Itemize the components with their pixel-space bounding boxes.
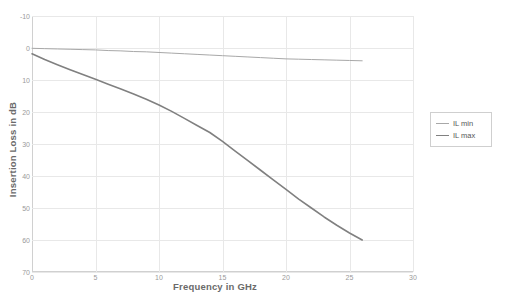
- y-axis-title: Insertion Loss in dB: [7, 90, 18, 210]
- y-tick-label: 10: [4, 77, 30, 84]
- x-tick-label: 10: [155, 274, 163, 281]
- legend-item-il-max[interactable]: IL max: [434, 130, 488, 141]
- x-tick-label: 20: [282, 274, 290, 281]
- x-tick-label: 30: [409, 274, 417, 281]
- x-tick-label: 15: [219, 274, 227, 281]
- y-tick-label: -10: [4, 13, 30, 20]
- plot-area: [32, 16, 413, 272]
- y-tick-label: 70: [4, 269, 30, 276]
- gridline-vertical: [413, 16, 414, 272]
- legend-swatch-il-max: [436, 135, 449, 137]
- series-line: [32, 48, 362, 60]
- chart-page: -10010203040506070 051015202530 Frequenc…: [0, 0, 505, 292]
- x-tick-label: 0: [30, 274, 34, 281]
- legend-label-il-min: IL min: [453, 119, 473, 128]
- legend-item-il-min[interactable]: IL min: [434, 118, 488, 129]
- gridline-horizontal: [32, 272, 413, 273]
- x-tick-label: 5: [94, 274, 98, 281]
- x-tick-label: 25: [346, 274, 354, 281]
- legend-label-il-max: IL max: [453, 131, 475, 140]
- y-tick-label: 0: [4, 45, 30, 52]
- y-tick-label: 60: [4, 237, 30, 244]
- series-line: [32, 54, 362, 240]
- x-axis-title: Frequency in GHz: [0, 281, 430, 292]
- legend-swatch-il-min: [436, 123, 449, 125]
- chart-legend: IL min IL max: [430, 112, 492, 147]
- series-plot: [32, 16, 413, 272]
